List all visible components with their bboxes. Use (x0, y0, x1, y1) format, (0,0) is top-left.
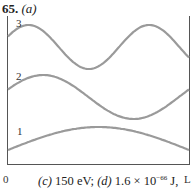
answer-caption: (c) 150 eV; (d) 1.6 × 10−66 J, (38, 174, 178, 189)
wave-curve-n3 (8, 25, 189, 69)
caption-d-exponent: −66 (156, 174, 167, 182)
x-tick-L: L (184, 173, 191, 185)
caption-d-label: (d) (97, 174, 112, 188)
caption-c-label: (c) (38, 174, 52, 188)
caption-c-value: 150 eV; (55, 174, 94, 188)
caption-d-unit: J, (170, 174, 178, 188)
wave-curve-n2 (8, 75, 189, 119)
label-n3: 3 (16, 17, 22, 29)
x-tick-0: 0 (3, 173, 9, 185)
wave-curve-n1 (8, 127, 189, 150)
caption-d-value: 1.6 × 10 (115, 174, 156, 188)
standing-wave-chart: 3 2 1 0 L (0, 0, 193, 193)
label-n2: 2 (16, 70, 22, 82)
label-n1: 1 (17, 125, 23, 137)
